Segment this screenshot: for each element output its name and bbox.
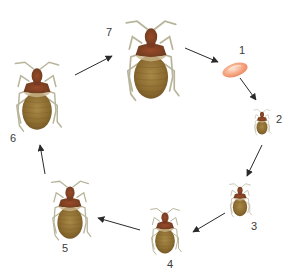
bug-nymph-stage-6 — [15, 62, 61, 131]
bug-nymph-stage-3 — [230, 184, 252, 217]
bug-nymph-stage-2 — [254, 110, 271, 136]
arrow-5-to-6 — [40, 145, 45, 174]
bug-adult-stage-7 — [126, 21, 179, 100]
stage-label-7: 7 — [106, 27, 112, 38]
arrow-3-to-4 — [193, 213, 225, 232]
life-cycle-diagram — [0, 0, 294, 275]
egg-stage-1 — [221, 60, 250, 80]
stage-label-5: 5 — [62, 243, 68, 254]
arrow-1-to-2 — [240, 78, 256, 100]
stage-label-1: 1 — [239, 45, 245, 56]
bug-nymph-stage-4 — [151, 209, 182, 255]
arrow-4-to-5 — [98, 218, 140, 230]
stage-label-6: 6 — [10, 133, 16, 144]
arrow-7-to-1 — [185, 48, 218, 62]
bug-nymph-stage-5 — [52, 181, 91, 240]
stage-label-2: 2 — [276, 114, 282, 125]
arrow-6-to-7 — [75, 56, 112, 75]
arrow-2-to-3 — [247, 145, 262, 176]
stage-label-3: 3 — [251, 221, 257, 232]
stage-label-4: 4 — [167, 259, 173, 270]
